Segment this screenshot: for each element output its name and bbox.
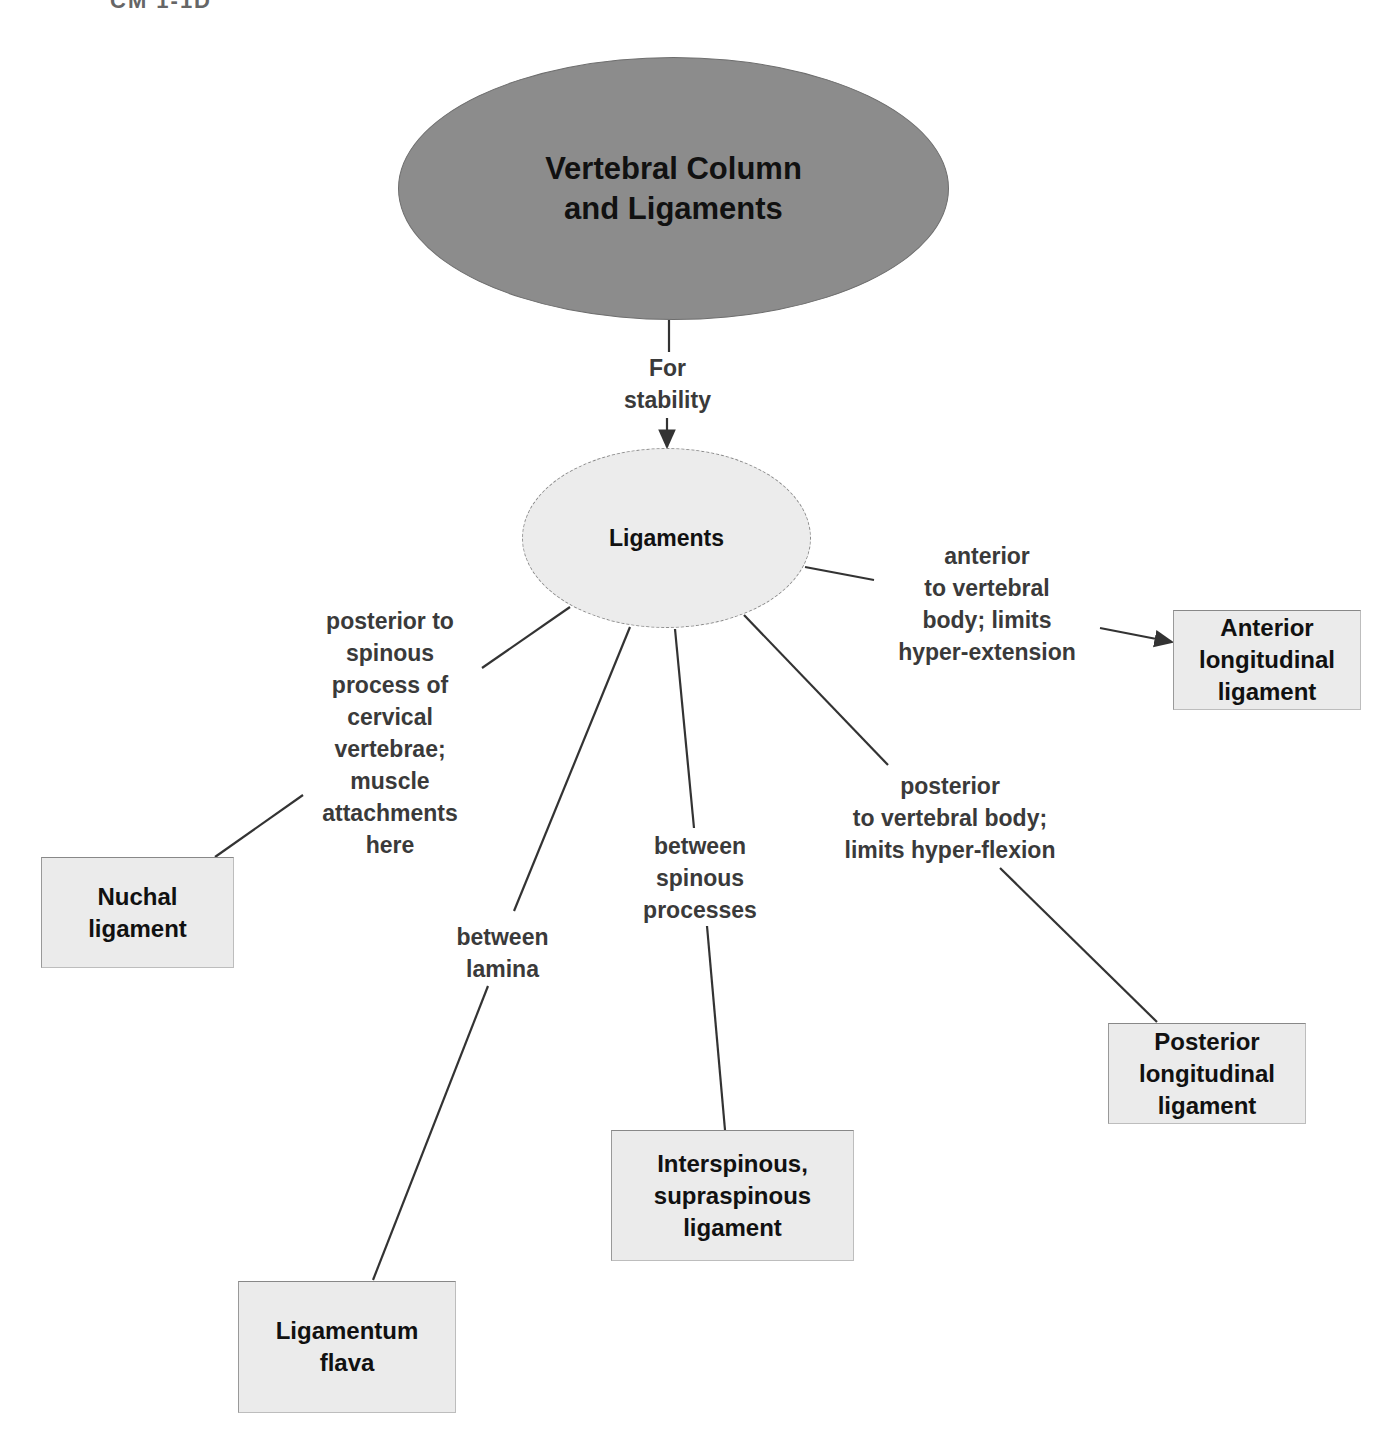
- figure-id-fragment: CM 1-1D: [110, 0, 212, 14]
- edge-label-between-spinous: between spinous processes: [610, 830, 790, 926]
- concept-map: CM 1-1D Vertebra: [0, 0, 1376, 1452]
- root-node-vertebral-column[interactable]: Vertebral Column and Ligaments: [398, 57, 949, 320]
- box-posterior-longitudinal-ligament[interactable]: Posterior longitudinal ligament: [1108, 1023, 1306, 1124]
- box-nuchal-ligament[interactable]: Nuchal ligament: [41, 857, 234, 968]
- hub-node-label: Ligaments: [609, 525, 724, 552]
- edge-label-posterior-spinous: posterior to spinous process of cervical…: [290, 605, 490, 861]
- root-node-label: Vertebral Column and Ligaments: [504, 149, 844, 229]
- edge-label-between-lamina: between lamina: [430, 921, 575, 985]
- edge-label-anterior: anterior to vertebral body; limits hyper…: [862, 540, 1112, 668]
- posterior-label-to-box-line: [1000, 868, 1157, 1022]
- edge-label-for-stability: For stability: [590, 352, 745, 416]
- box-anterior-longitudinal-ligament[interactable]: Anterior longitudinal ligament: [1173, 610, 1361, 710]
- flava-label-to-box-line: [373, 986, 488, 1280]
- interspinous-label-to-box-line: [707, 926, 725, 1130]
- box-interspinous-supraspinous-ligament[interactable]: Interspinous, supraspinous ligament: [611, 1130, 854, 1261]
- box-ligamentum-flava[interactable]: Ligamentum flava: [238, 1281, 456, 1413]
- hub-node-ligaments[interactable]: Ligaments: [522, 448, 811, 628]
- edge-label-posterior: posterior to vertebral body; limits hype…: [805, 770, 1095, 866]
- hub-to-interspinous-label-line: [675, 629, 694, 828]
- hub-to-nuchal-label-line: [482, 607, 570, 668]
